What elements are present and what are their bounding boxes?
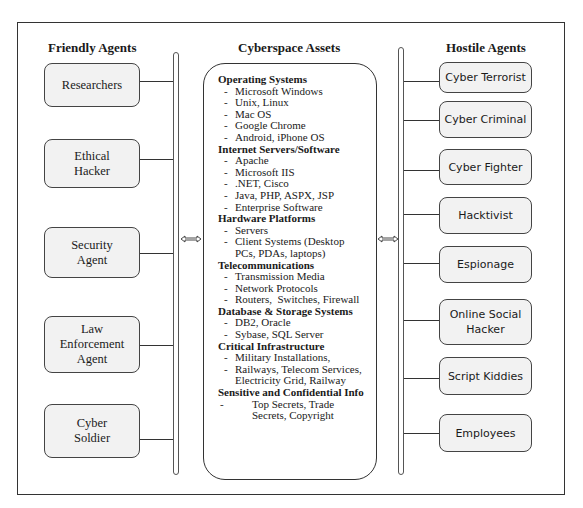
hostile-bus-bar xyxy=(398,47,404,475)
category-title: Operating Systems xyxy=(218,74,372,86)
agent-label: Espionage xyxy=(457,257,514,272)
asset-item: Client Systems (Desktop PCs, PDAs, lapto… xyxy=(218,236,372,259)
connector-line xyxy=(140,81,173,82)
agent-label: Researchers xyxy=(62,78,122,93)
connector-line xyxy=(404,214,439,215)
hostile-agent-cyber-fighter: Cyber Fighter xyxy=(439,149,532,185)
asset-item: Java, PHP, ASPX, JSP xyxy=(218,190,372,202)
asset-item: Android, iPhone OS xyxy=(218,132,372,144)
category-hardware-platforms: Hardware Platforms Servers Client System… xyxy=(218,213,372,259)
double-arrow-icon xyxy=(180,235,202,243)
hostile-agent-employees: Employees xyxy=(439,414,532,452)
connector-line xyxy=(140,345,173,346)
connector-line xyxy=(404,81,439,82)
connector-line xyxy=(404,120,439,121)
agent-label: Ethical Hacker xyxy=(65,149,119,179)
friendly-bus-bar xyxy=(173,52,179,475)
agent-label: Cyber Soldier xyxy=(69,416,115,446)
connector-line xyxy=(140,439,173,440)
friendly-agent-law-enforcement: Law Enforcement Agent xyxy=(44,316,140,373)
category-sensitive-info: Sensitive and Confidential Info Top Secr… xyxy=(218,387,372,422)
connector-line xyxy=(404,320,439,321)
hostile-agent-espionage: Espionage xyxy=(439,246,532,283)
asset-item: Top Secrets, Trade Secrets, Copyright xyxy=(218,399,372,422)
agent-label: Security Agent xyxy=(65,238,119,268)
asset-item: Transmission Media xyxy=(218,271,372,283)
agent-label: Cyber Terrorist xyxy=(445,70,526,85)
hostile-agent-hacktivist: Hacktivist xyxy=(439,197,532,234)
hostile-agent-script-kiddies: Script Kiddies xyxy=(439,357,532,395)
hostile-agent-cyber-terrorist: Cyber Terrorist xyxy=(439,62,532,93)
asset-item: Railways, Telecom Services, Electricity … xyxy=(218,364,372,387)
cyberspace-assets-box: Operating Systems Microsoft Windows Unix… xyxy=(203,63,377,480)
connector-line xyxy=(404,263,439,264)
cyberspace-assets-title: Cyberspace Assets xyxy=(238,40,340,56)
hostile-agent-online-social-hacker: Online Social Hacker xyxy=(439,299,532,345)
category-title: Hardware Platforms xyxy=(218,213,372,225)
category-database-storage: Database & Storage Systems DB2, Oracle S… xyxy=(218,306,372,341)
asset-item: Sybase, SQL Server xyxy=(218,329,372,341)
connector-line xyxy=(140,159,173,160)
hostile-agents-title: Hostile Agents xyxy=(446,40,526,56)
friendly-agents-title: Friendly Agents xyxy=(48,40,136,56)
agent-label: Law Enforcement Agent xyxy=(60,322,125,367)
asset-item: Enterprise Software xyxy=(218,202,372,214)
double-arrow-icon xyxy=(377,235,399,243)
connector-line xyxy=(140,253,173,254)
asset-item: Routers, Switches, Firewall xyxy=(218,294,372,306)
agent-label: Hacktivist xyxy=(458,208,512,223)
connector-line xyxy=(404,433,439,434)
category-critical-infrastructure: Critical Infrastructure Military Install… xyxy=(218,341,372,387)
agent-label: Script Kiddies xyxy=(448,369,523,384)
category-internet-servers: Internet Servers/Software Apache Microso… xyxy=(218,144,372,214)
agent-label: Online Social Hacker xyxy=(448,307,523,337)
friendly-agent-security-agent: Security Agent xyxy=(44,227,140,278)
friendly-agent-ethical-hacker: Ethical Hacker xyxy=(44,139,140,188)
category-title: Sensitive and Confidential Info xyxy=(218,387,372,399)
hostile-agent-cyber-criminal: Cyber Criminal xyxy=(439,101,532,138)
friendly-agent-researchers: Researchers xyxy=(44,63,140,107)
agent-label: Cyber Fighter xyxy=(448,160,522,175)
category-operating-systems: Operating Systems Microsoft Windows Unix… xyxy=(218,74,372,144)
category-telecommunications: Telecommunications Transmission Media Ne… xyxy=(218,260,372,306)
agent-label: Employees xyxy=(455,426,515,441)
connector-line xyxy=(404,378,439,379)
connector-line xyxy=(404,170,439,171)
agent-label: Cyber Criminal xyxy=(445,112,527,127)
asset-item: Apache xyxy=(218,155,372,167)
friendly-agent-cyber-soldier: Cyber Soldier xyxy=(44,404,140,458)
